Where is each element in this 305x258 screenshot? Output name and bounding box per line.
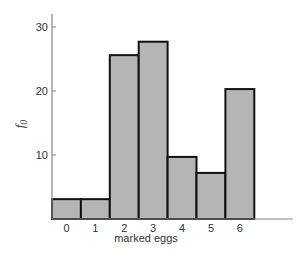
y-tick-label-10: 10 — [36, 149, 48, 161]
x-tick-label-1: 1 — [92, 222, 98, 234]
y-axis-title-subscript: 0 — [18, 120, 29, 125]
x-tick-label-0: 0 — [63, 222, 69, 234]
y-ticks-group: 102030 — [36, 21, 56, 161]
x-axis-title: marked eggs — [114, 232, 178, 244]
bar-3 — [139, 42, 168, 219]
x-tick-label-5: 5 — [208, 222, 214, 234]
x-tick-label-6: 6 — [237, 222, 243, 234]
bar-1 — [81, 199, 110, 219]
x-tick-label-4: 4 — [179, 222, 185, 234]
bar-2 — [110, 55, 139, 219]
bar-6 — [225, 89, 254, 219]
y-tick-label-20: 20 — [36, 85, 48, 97]
bars-group — [52, 42, 254, 219]
y-tick-label-30: 30 — [36, 21, 48, 33]
histogram-chart: 102030 0123456 marked eggs f0 — [0, 0, 305, 258]
y-axis-title: f0 — [12, 120, 29, 129]
bar-4 — [168, 157, 197, 219]
bar-0 — [52, 199, 81, 219]
bar-5 — [197, 173, 226, 219]
